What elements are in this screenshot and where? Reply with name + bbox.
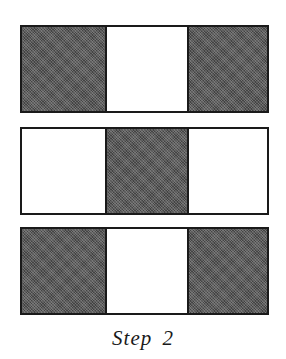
row-2	[20, 127, 269, 215]
row-1-cell-2	[105, 27, 187, 111]
row-3	[20, 227, 269, 315]
row-3-cell-2	[105, 229, 187, 313]
row-1	[20, 25, 269, 113]
row-3-cell-1	[22, 229, 105, 313]
step-caption: Step 2	[0, 326, 286, 351]
row-2-cell-1	[22, 129, 105, 213]
row-3-cell-3	[187, 229, 267, 313]
row-2-cell-3	[187, 129, 267, 213]
row-2-cell-2	[105, 129, 187, 213]
row-1-cell-3	[187, 27, 267, 111]
row-1-cell-1	[22, 27, 105, 111]
